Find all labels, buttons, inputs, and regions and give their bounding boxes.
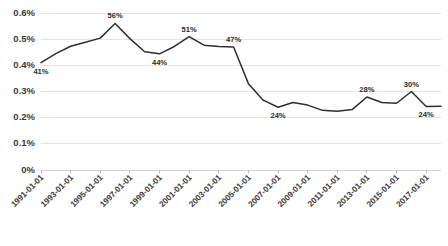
y-axis-tick-label: 0.5%	[13, 33, 35, 44]
data-point-label: 24%	[419, 110, 434, 119]
x-axis-tick-label: 2017-01-01	[395, 173, 431, 209]
y-axis-tick-label: 0.6%	[13, 7, 35, 18]
y-axis-tick-labels: 0.6%0.5%0.4%0.3%0.2%0.1%0%	[13, 7, 35, 175]
data-point-label: 30%	[404, 80, 419, 89]
x-axis-tick-labels: 1991-01-011993-01-011995-01-011997-01-01…	[9, 173, 430, 209]
y-axis-tick-label: 0.4%	[13, 59, 35, 70]
data-point-label: 51%	[182, 25, 197, 34]
y-axis-tick-label: 0.3%	[13, 85, 35, 96]
y-axis-tick-label: 0.2%	[13, 111, 35, 122]
data-point-label: 41%	[33, 67, 48, 76]
data-point-label: 24%	[270, 111, 285, 120]
data-point-label: 44%	[152, 58, 167, 67]
data-point-label: 56%	[107, 11, 122, 20]
data-point-label: 47%	[226, 35, 241, 44]
data-point-label: 28%	[359, 85, 374, 94]
line-chart: 0.6%0.5%0.4%0.3%0.2%0.1%0% 1991-01-01199…	[0, 0, 448, 246]
y-axis-tick-label: 0.1%	[13, 137, 35, 148]
chart-container: 0.6%0.5%0.4%0.3%0.2%0.1%0% 1991-01-01199…	[0, 0, 448, 246]
y-axis-tick-label: 0%	[21, 164, 35, 175]
